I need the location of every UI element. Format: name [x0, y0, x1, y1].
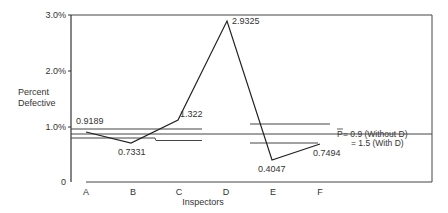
x-axis-label: Inspectors [182, 197, 224, 207]
x-tick-d: D [223, 187, 230, 197]
x-tick-a: A [83, 187, 89, 197]
y-tick-label-1: 1.0% [45, 122, 66, 132]
y-tick-label-0: 0 [61, 177, 66, 187]
y-axis-label-line2: Defective [18, 98, 56, 108]
x-tick-f: F [317, 187, 323, 197]
data-label-b: 0.7331 [118, 147, 146, 157]
data-label-d: 2.9325 [232, 16, 260, 26]
data-label-e: 0.4047 [258, 164, 286, 174]
data-label-f: 0.7494 [313, 148, 341, 158]
data-label-c: 1.322 [180, 109, 203, 119]
data-series-line [86, 21, 320, 160]
x-tick-e: E [270, 187, 276, 197]
y-tick-label-2: 2.0% [45, 66, 66, 76]
x-tick-b: B [130, 187, 136, 197]
data-label-a: 0.9189 [76, 116, 104, 126]
x-tick-c: C [176, 187, 183, 197]
y-axis-label-line1: Percent [18, 87, 50, 97]
p-chart: 3.0% 2.0% 1.0% 0 Percent Defective 0.918… [0, 0, 448, 213]
y-tick-label-3: 3.0% [45, 10, 66, 20]
pbar-with-d-label: = 1.5 (With D) [351, 138, 404, 148]
